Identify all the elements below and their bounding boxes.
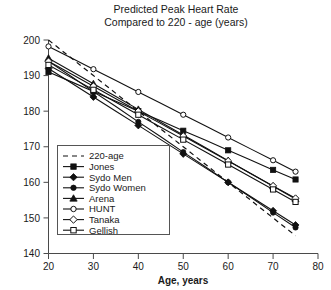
marker-circle [136,89,141,94]
y-tick-label: 200 [23,35,40,46]
marker-circle [270,210,275,215]
chart-title-line-2: Compared to 220 - age (years) [104,16,248,28]
x-tick-label: 80 [312,261,324,272]
marker-circle [293,225,298,230]
marker-circle [226,180,231,185]
y-tick-label: 150 [23,213,40,224]
marker-square [226,148,231,153]
marker-circle [136,119,141,124]
marker-circle [181,112,186,117]
marker-square [71,228,76,233]
x-tick-label: 30 [88,261,100,272]
marker-square [293,199,298,204]
legend-label: Jones [89,161,115,172]
chart-legend: 220-ageJonesSydo MenSydo WomenArenaHUNTT… [58,146,170,236]
marker-square [226,162,231,167]
chart-title-line-1: Predicted Peak Heart Rate [114,3,239,15]
marker-square [136,112,141,117]
marker-square [270,167,275,172]
legend-label: Sydo Women [89,182,146,193]
chart-figure: Predicted Peak Heart Rate Compared to 22… [0,0,331,290]
marker-circle [270,158,275,163]
legend-label: 220-age [89,150,124,161]
marker-circle [91,67,96,72]
x-tick-label: 60 [223,261,235,272]
y-tick-label: 160 [23,177,40,188]
legend-label: HUNT [89,203,116,214]
y-tick-label: 180 [23,106,40,117]
marker-circle [71,185,76,190]
marker-square [91,87,96,92]
legend-label: Gellish [89,225,118,236]
x-tick-label: 20 [43,261,55,272]
legend-label: Tanaka [89,214,120,225]
marker-circle [181,149,186,154]
marker-circle [46,44,51,49]
marker-square [46,62,51,67]
y-tick-label: 190 [23,70,40,81]
legend-item-sydo-men[interactable]: Sydo Men [63,172,132,183]
marker-square [71,164,76,169]
y-tick-label: 170 [23,141,40,152]
legend-label: Sydo Men [89,172,132,183]
y-tick-label: 140 [23,248,40,259]
x-tick-label: 50 [178,261,190,272]
marker-square [181,137,186,142]
marker-square [293,177,298,182]
marker-circle [71,206,76,211]
marker-square [270,187,275,192]
marker-circle [226,135,231,140]
x-tick-label: 70 [268,261,280,272]
x-axis-label: Age, years [158,275,209,286]
marker-circle [293,169,298,174]
legend-label: Arena [89,193,115,204]
x-tick-label: 40 [133,261,145,272]
